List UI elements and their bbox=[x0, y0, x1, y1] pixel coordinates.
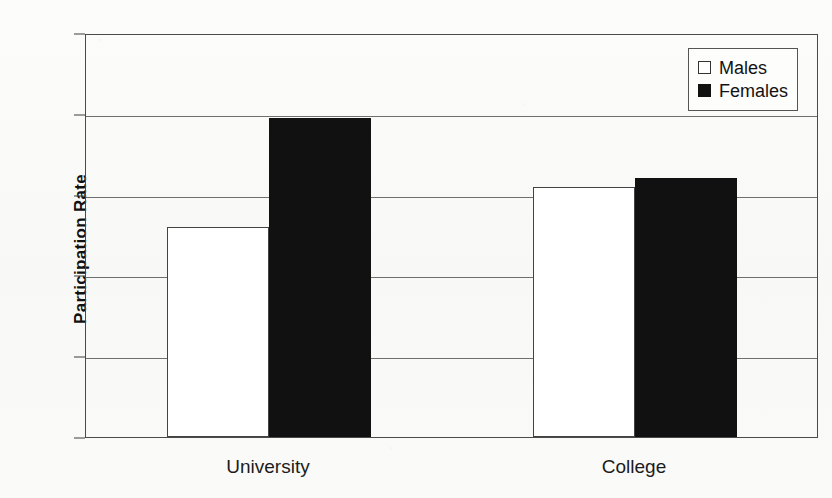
bar-college-males bbox=[533, 187, 635, 437]
y-tick-mark bbox=[74, 276, 85, 277]
legend-item-males: Males bbox=[698, 56, 789, 79]
legend-label-females: Females bbox=[719, 82, 788, 100]
bar-university-females bbox=[269, 118, 371, 437]
x-axis-label-college: College bbox=[602, 456, 666, 478]
y-tick-mark bbox=[74, 357, 85, 358]
y-tick-mark bbox=[74, 195, 85, 196]
legend-swatch-females-icon bbox=[698, 84, 711, 97]
y-tick-mark bbox=[74, 438, 85, 439]
y-tick-mark bbox=[74, 114, 85, 115]
bar-college-females bbox=[635, 178, 737, 437]
legend-item-females: Females bbox=[698, 79, 789, 102]
legend: Males Females bbox=[688, 48, 798, 111]
y-tick-mark bbox=[74, 34, 85, 35]
x-axis-label-university: University bbox=[226, 456, 309, 478]
legend-label-males: Males bbox=[719, 59, 767, 77]
gridline bbox=[86, 116, 817, 117]
bar-university-males bbox=[167, 227, 269, 437]
legend-swatch-males-icon bbox=[698, 61, 711, 74]
bar-chart: Participation Rate 0.50.40.30.20.10.0 Un… bbox=[0, 0, 832, 498]
